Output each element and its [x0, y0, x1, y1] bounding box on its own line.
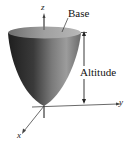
z-axis-label: z [41, 3, 45, 12]
x-axis-label: x [17, 131, 21, 140]
altitude-arrow-down-icon [82, 99, 86, 104]
altitude-arrow-up-icon [82, 31, 86, 36]
paraboloid-surface [8, 33, 81, 106]
y-axis-label: y [119, 98, 123, 107]
altitude-label: Altitude [80, 66, 116, 79]
base-ellipse [8, 27, 81, 39]
base-label: Base [68, 8, 89, 19]
x-axis [24, 106, 44, 131]
